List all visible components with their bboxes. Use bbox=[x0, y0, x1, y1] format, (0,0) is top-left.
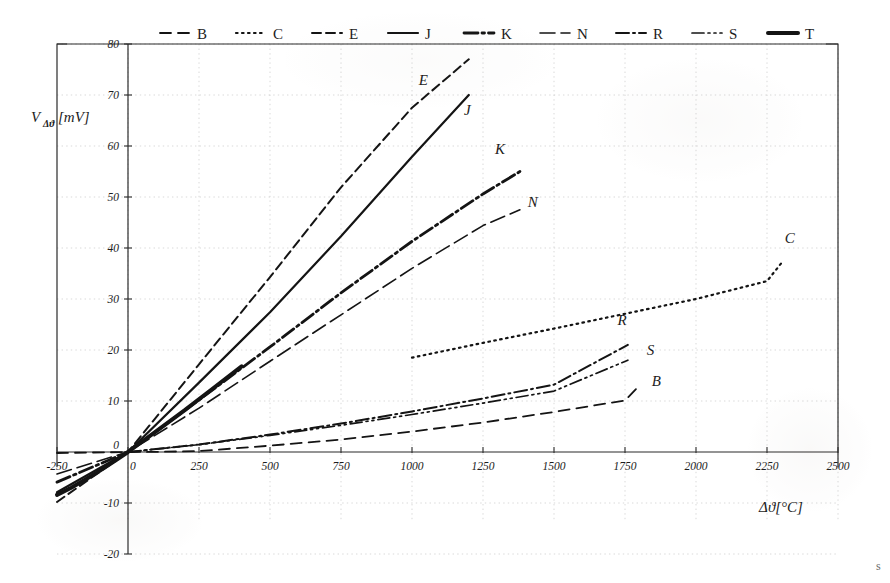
x-axis-tick-labels: -250025050075010001250150017502000225025… bbox=[46, 460, 849, 472]
axis-corner-left bbox=[57, 44, 67, 467]
series-label-c: C bbox=[785, 230, 796, 246]
legend-label-k: K bbox=[501, 26, 512, 42]
y-tick-label: -20 bbox=[104, 548, 120, 560]
axis-corner-right bbox=[826, 44, 838, 467]
y-tick-label: 50 bbox=[108, 191, 120, 203]
x-tick-label: 1500 bbox=[543, 460, 566, 472]
legend-label-c: C bbox=[273, 26, 283, 42]
series-curve-b bbox=[57, 386, 639, 453]
legend-label-r: R bbox=[653, 26, 663, 42]
y-tick-label: 80 bbox=[108, 38, 120, 50]
series-label-e: E bbox=[418, 72, 428, 88]
series-label-j: J bbox=[464, 102, 472, 118]
x-tick-label: 2500 bbox=[827, 460, 850, 472]
series-label-b: B bbox=[652, 373, 661, 389]
series-curve-c bbox=[412, 263, 781, 357]
x-tick-label: 2000 bbox=[685, 460, 708, 472]
y-tick-label: 10 bbox=[108, 395, 120, 407]
series-label-n: N bbox=[527, 194, 539, 210]
corner-annotation: s bbox=[876, 559, 881, 573]
x-tick-label: 250 bbox=[190, 460, 208, 472]
legend-label-s: S bbox=[729, 26, 737, 42]
plot-frame bbox=[57, 44, 838, 554]
series-label-r: R bbox=[617, 312, 627, 328]
legend-label-n: N bbox=[577, 26, 588, 42]
x-tick-label: 750 bbox=[332, 460, 350, 472]
x-tick-label: 1750 bbox=[614, 460, 637, 472]
legend-label-j: J bbox=[425, 26, 431, 42]
y-tick-label: 60 bbox=[108, 140, 120, 152]
y-tick-label: -10 bbox=[104, 497, 120, 509]
x-axis-title: Δϑ[°C] bbox=[758, 499, 803, 515]
x-tick-label: 2250 bbox=[756, 460, 779, 472]
y-tick-label: 0 bbox=[113, 439, 119, 451]
x-tick-label: 500 bbox=[261, 460, 279, 472]
chart-svg: -250025050075010001250150017502000225025… bbox=[0, 0, 890, 583]
legend: BCEJKNRST bbox=[160, 26, 814, 42]
y-axis-title-unit: [mV] bbox=[58, 109, 90, 125]
horizontal-gridlines bbox=[57, 44, 838, 554]
thermocouple-voltage-chart: -250025050075010001250150017502000225025… bbox=[0, 0, 890, 583]
series-curve-n bbox=[57, 210, 520, 474]
data-series-group bbox=[57, 59, 781, 502]
y-tick-label: 70 bbox=[108, 89, 120, 101]
y-tick-label: 40 bbox=[108, 242, 120, 254]
legend-label-t: T bbox=[805, 26, 814, 42]
x-tick-label: 1000 bbox=[401, 460, 424, 472]
x-tick-label: 1250 bbox=[472, 460, 495, 472]
y-axis-tick-labels: -20-1001020304050607080 bbox=[104, 38, 120, 560]
x-tick-label: -250 bbox=[46, 460, 67, 472]
legend-label-e: E bbox=[349, 26, 358, 42]
series-label-k: K bbox=[494, 141, 506, 157]
axis-titles: V Δϑ [mV] Δϑ[°C] bbox=[31, 109, 803, 515]
y-axis-title: V bbox=[31, 109, 42, 125]
legend-label-b: B bbox=[197, 26, 207, 42]
series-label-s: S bbox=[647, 342, 655, 358]
x-tick-label: 0 bbox=[130, 460, 136, 472]
y-axis-title-subscript: Δϑ bbox=[42, 118, 55, 129]
y-tick-label: 20 bbox=[108, 344, 120, 356]
series-curve-k bbox=[57, 172, 520, 483]
y-tick-label: 30 bbox=[107, 293, 120, 305]
